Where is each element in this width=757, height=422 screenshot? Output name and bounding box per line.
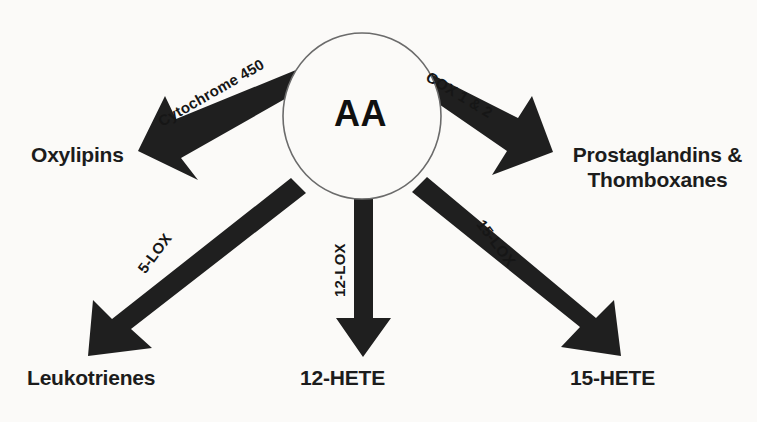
node-label-12-hete: 12-HETE: [300, 365, 385, 390]
node-label-prostaglandins-line2: Thomboxanes: [587, 168, 727, 191]
pathway-diagram: AA Cytochrome 450 COX 1 & 2 5-LOX 12-LOX…: [0, 0, 757, 422]
aa-node-label: AA: [334, 93, 387, 135]
edge-label-12lox: 12-LOX: [331, 243, 348, 297]
node-label-prostaglandins: Prostaglandins & Thomboxanes: [560, 142, 755, 192]
diagram-canvas: [0, 0, 757, 422]
arrow-15lox: [412, 177, 621, 356]
node-label-oxylipins: Oxylipins: [31, 142, 124, 167]
node-label-15-hete: 15-HETE: [570, 365, 655, 390]
node-label-leukotrienes: Leukotrienes: [27, 365, 155, 390]
arrow-5lox: [88, 178, 306, 356]
node-label-prostaglandins-line1: Prostaglandins &: [573, 143, 743, 166]
